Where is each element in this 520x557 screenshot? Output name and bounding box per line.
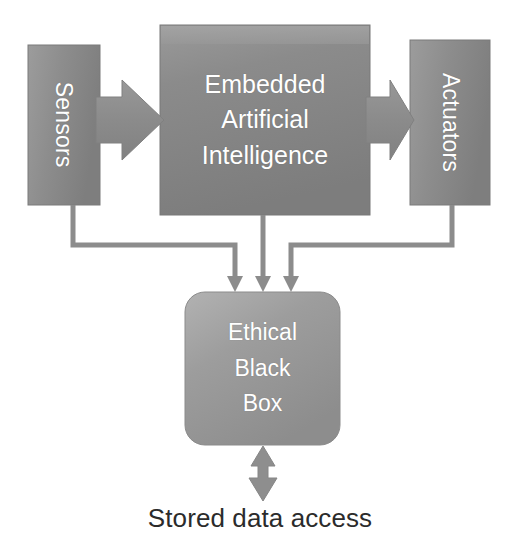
- connector-actuators-to-ebb: [291, 205, 452, 278]
- node-embedded-ai[interactable]: [160, 25, 370, 215]
- right-block-arrow-icon: [366, 80, 414, 160]
- embedded-ai-box-shape: [160, 25, 370, 215]
- connector-sensors-to-embedded-ai: [96, 80, 164, 160]
- connector-ebb-to-stored-data-access: [249, 446, 277, 501]
- embedded-ai-ebb-arrowhead-icon: [255, 276, 271, 292]
- sensors-ebb-arrowhead-icon: [227, 276, 243, 292]
- right-block-arrow-icon: [96, 80, 164, 160]
- actuators-ebb-arrowhead-icon: [283, 276, 299, 292]
- connector-embedded-ai-to-actuators: [366, 80, 414, 160]
- node-actuators[interactable]: [410, 40, 490, 205]
- embedded-ai-top-highlight-band: [161, 26, 369, 44]
- node-sensors[interactable]: [28, 45, 100, 205]
- node-ethical-black-box[interactable]: [185, 292, 340, 445]
- sensors-box-shape: [28, 45, 100, 205]
- actuators-box-shape: [410, 40, 490, 205]
- connector-sensors-to-ebb: [73, 205, 235, 278]
- double-headed-arrow-icon: [249, 446, 277, 501]
- actuators-ebb-elbow-path: [291, 205, 452, 278]
- diagram-canvas: Sensors Embedded Artificial Intelligence…: [0, 0, 520, 557]
- ethical-black-box-shape: [185, 292, 340, 445]
- diagram-graphics-layer: [0, 0, 520, 557]
- sensors-ebb-elbow-path: [73, 205, 235, 278]
